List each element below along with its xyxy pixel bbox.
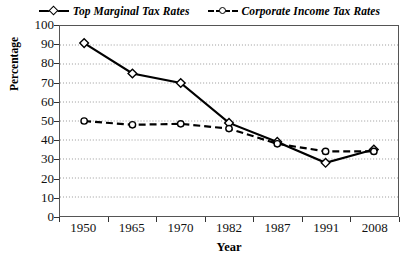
legend-dashed-circle-icon <box>208 6 238 16</box>
y-tick-label: 50 <box>20 114 54 127</box>
legend-entry-corporate-income-tax-rates: Corporate Income Tax Rates <box>208 5 381 17</box>
data-point <box>371 148 377 154</box>
y-tick-label: 90 <box>20 37 54 50</box>
plot-area <box>60 26 398 216</box>
legend-label-corporate-income-tax-rates: Corporate Income Tax Rates <box>242 5 381 17</box>
x-axis-tick-labels: 1950196519701982198719912008 <box>59 221 399 239</box>
x-axis-title: Year <box>59 240 399 255</box>
x-tick-label: 1991 <box>302 221 350 235</box>
legend-entry-top-marginal-tax-rates: Top Marginal Tax Rates <box>39 5 190 17</box>
tax-rates-line-chart: Top Marginal Tax Rates Corporate Income … <box>0 0 419 266</box>
y-tick-label: 60 <box>20 95 54 108</box>
x-tick-mark <box>399 217 400 222</box>
legend-label-top-marginal-tax-rates: Top Marginal Tax Rates <box>73 5 190 17</box>
data-point <box>226 125 232 131</box>
plot-frame <box>59 25 399 217</box>
data-point <box>322 148 328 154</box>
x-tick-label: 1987 <box>254 221 302 235</box>
y-tick-label: 70 <box>20 76 54 89</box>
x-tick-label: 1965 <box>108 221 156 235</box>
y-tick-label: 100 <box>20 18 54 31</box>
data-point <box>81 118 87 124</box>
x-tick-label: 2008 <box>351 221 399 235</box>
y-tick-label: 20 <box>20 172 54 185</box>
y-tick-label: 30 <box>20 152 54 165</box>
y-tick-label: 10 <box>20 191 54 204</box>
x-tick-label: 1982 <box>205 221 253 235</box>
x-tick-label: 1970 <box>156 221 204 235</box>
series-line-0 <box>84 43 374 163</box>
data-point <box>274 141 280 147</box>
data-point <box>321 158 330 167</box>
x-tick-label: 1950 <box>59 221 107 235</box>
data-point <box>129 122 135 128</box>
chart-legend: Top Marginal Tax Rates Corporate Income … <box>0 2 419 20</box>
legend-line-diamond-icon <box>39 6 69 16</box>
y-tick-label: 0 <box>20 210 54 223</box>
data-point <box>178 121 184 127</box>
y-tick-label: 40 <box>20 133 54 146</box>
y-tick-label: 80 <box>20 56 54 69</box>
y-axis-tick-labels: 1009080706050403020100 <box>14 25 54 217</box>
